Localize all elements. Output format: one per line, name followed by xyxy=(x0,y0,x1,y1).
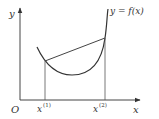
x2-label: x xyxy=(93,104,98,114)
convex-function-diagram: y O x y = f(x) x (1) x (2) xyxy=(0,0,159,119)
y-axis-label: y xyxy=(8,8,15,19)
x1-label: x xyxy=(37,104,42,114)
curve-label: y = f(x) xyxy=(109,6,144,16)
function-curve xyxy=(37,9,108,75)
x2-superscript: (2) xyxy=(99,102,107,108)
secant-line xyxy=(45,38,105,61)
x-axis-label: x xyxy=(133,104,139,115)
origin-label: O xyxy=(11,104,19,115)
x1-superscript: (1) xyxy=(43,102,51,108)
